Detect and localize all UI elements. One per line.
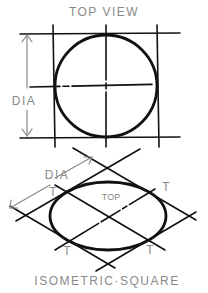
iso-edge-top-left bbox=[16, 149, 140, 221]
grid-line-top bbox=[20, 33, 180, 34]
isometric-view: DIA TOP T T T T ISOMETRIC·SQUARE bbox=[10, 148, 196, 288]
center-line-horizontal bbox=[30, 84, 172, 87]
tangent-label-lower-left: T bbox=[63, 244, 71, 258]
top-view-title: TOP VIEW bbox=[69, 5, 139, 19]
iso-top-label: TOP bbox=[102, 192, 120, 202]
iso-dia-label: DIA bbox=[45, 168, 70, 182]
tangent-label-lower-right: T bbox=[146, 243, 154, 257]
tangent-label-upper-left: T bbox=[49, 185, 57, 199]
top-view: TOP VIEW DIA bbox=[12, 5, 180, 147]
tangent-label-upper-right: T bbox=[162, 180, 170, 194]
top-view-dia-label: DIA bbox=[12, 94, 37, 108]
iso-caption: ISOMETRIC·SQUARE bbox=[34, 274, 179, 288]
diagram-canvas: TOP VIEW DIA DIA TOP bbox=[0, 0, 208, 293]
